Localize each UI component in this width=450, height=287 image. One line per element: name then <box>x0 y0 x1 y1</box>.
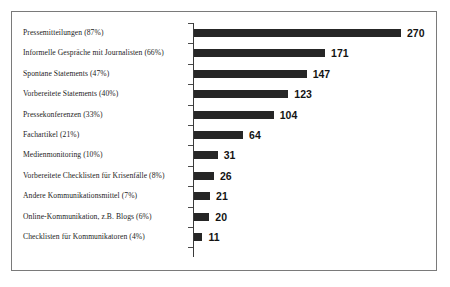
bar-category-label: Pressemitteilungen (87%) <box>23 23 191 43</box>
bar <box>194 49 325 57</box>
bar-category-label: Checklisten für Kommunikatoren (4%) <box>23 227 191 247</box>
bar <box>194 192 210 200</box>
bar-category-label: Medienmonitoring (10%) <box>23 145 191 165</box>
axis-tick <box>188 247 193 248</box>
bar-category-label: Online-Kommunikation, z.B. Blogs (6%) <box>23 207 191 227</box>
bar <box>194 90 288 98</box>
bar-category-label: Vorbereitete Checklisten für Krisenfälle… <box>23 166 191 186</box>
chart-frame: Pressemitteilungen (87%)270Informelle Ge… <box>11 11 437 271</box>
bar-category-label: Spontane Statements (47%) <box>23 64 191 84</box>
bar-row: Vorbereitete Statements (40%)123 <box>12 84 436 104</box>
bar-row: Online-Kommunikation, z.B. Blogs (6%)20 <box>12 207 436 227</box>
bar-row: Pressemitteilungen (87%)270 <box>12 23 436 43</box>
plot-area: Pressemitteilungen (87%)270Informelle Ge… <box>12 12 436 270</box>
bar <box>194 233 202 241</box>
bar-row: Informelle Gespräche mit Journalisten (6… <box>12 43 436 63</box>
bar <box>194 213 209 221</box>
bar <box>194 29 401 37</box>
bar-value-label: 11 <box>208 233 219 241</box>
bar-value-label: 31 <box>224 151 236 159</box>
bar-category-label: Fachartikel (21%) <box>23 125 191 145</box>
bar-row: Spontane Statements (47%)147 <box>12 64 436 84</box>
bar-row: Medienmonitoring (10%)31 <box>12 145 436 165</box>
bar <box>194 70 307 78</box>
bar-value-label: 21 <box>216 192 228 200</box>
bar-category-label: Pressekonferenzen (33%) <box>23 105 191 125</box>
bar-row: Checklisten für Kommunikatoren (4%)11 <box>12 227 436 247</box>
bar <box>194 131 243 139</box>
bar-category-label: Andere Kommunikationsmittel (7%) <box>23 186 191 206</box>
bar-value-label: 123 <box>294 90 312 98</box>
bar <box>194 111 274 119</box>
bar-row: Pressekonferenzen (33%)104 <box>12 105 436 125</box>
bar-category-label: Vorbereitete Statements (40%) <box>23 84 191 104</box>
bar <box>194 151 218 159</box>
bar-value-label: 64 <box>249 131 261 139</box>
bar-row: Fachartikel (21%)64 <box>12 125 436 145</box>
bar-value-label: 270 <box>407 29 425 37</box>
bar-value-label: 171 <box>331 49 349 57</box>
bar-value-label: 26 <box>220 172 232 180</box>
bar-value-label: 147 <box>313 70 331 78</box>
bar-value-label: 20 <box>215 213 227 221</box>
bar-row: Andere Kommunikationsmittel (7%)21 <box>12 186 436 206</box>
bar-category-label: Informelle Gespräche mit Journalisten (6… <box>23 43 191 63</box>
bar-row: Vorbereitete Checklisten für Krisenfälle… <box>12 166 436 186</box>
bar <box>194 172 214 180</box>
bar-value-label: 104 <box>280 111 298 119</box>
